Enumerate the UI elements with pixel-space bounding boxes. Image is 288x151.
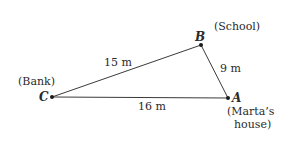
vertex-dot-c [50, 95, 54, 99]
vertex-label-a: A [232, 92, 241, 104]
vertex-dot-a [226, 96, 230, 100]
edge-ca [52, 97, 228, 98]
place-label-bank: (Bank) [18, 76, 55, 88]
triangle-diagram: (School) B (Bank) C A (Marta’s house) 15… [0, 0, 288, 151]
place-label-martas-house-line1: (Marta’s [227, 106, 275, 118]
edge-cb [52, 45, 201, 97]
edge-label-ba: 9 m [220, 63, 241, 75]
vertex-label-b: B [195, 31, 205, 43]
edge-label-cb: 15 m [104, 57, 132, 69]
edge-label-ca: 16 m [138, 101, 166, 113]
place-label-school: (School) [214, 21, 260, 33]
vertex-label-c: C [39, 91, 49, 103]
place-label-martas-house-line2: house) [234, 119, 271, 131]
